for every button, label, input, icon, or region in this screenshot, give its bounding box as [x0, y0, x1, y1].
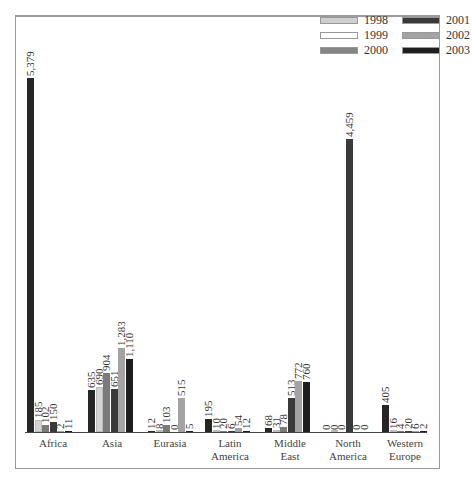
bar-group-asia: 6356909046511,2831,110	[88, 40, 134, 433]
bar	[280, 427, 287, 432]
bar	[228, 431, 235, 433]
data-label: 1,110	[125, 333, 134, 357]
data-label: 0	[360, 425, 369, 431]
bar-group-western-europe: 4051642062	[382, 40, 428, 433]
bar-group-north-america: 0004,45900	[323, 40, 369, 433]
legend-label: 2002	[446, 28, 470, 43]
bar	[111, 389, 118, 432]
data-label: 11	[64, 418, 73, 429]
bar	[405, 431, 412, 433]
bar	[126, 359, 133, 432]
bar	[96, 387, 103, 432]
bar	[273, 430, 280, 432]
bar	[265, 428, 272, 432]
bar	[65, 431, 72, 433]
bar	[220, 431, 227, 433]
plot-area: 5,3791851021502116356909046511,2831,1101…	[20, 40, 435, 433]
data-label: 2	[419, 423, 428, 429]
legend-label: 2001	[446, 13, 470, 28]
legend-swatch	[320, 17, 358, 24]
bar	[42, 425, 49, 432]
bar	[412, 431, 419, 433]
bar-group-middle-east: 683178513772760	[265, 40, 311, 433]
legend-swatch	[320, 32, 358, 39]
bar	[303, 382, 310, 432]
bar	[243, 431, 250, 433]
data-label: 12	[242, 418, 251, 429]
data-label: 760	[302, 363, 311, 380]
bar	[295, 381, 302, 432]
x-tick-label: WesternEurope	[370, 437, 440, 463]
bar	[331, 430, 338, 432]
bar	[420, 431, 427, 433]
x-tick-label-line: Western	[370, 437, 440, 450]
legend-item-2001: 2001	[402, 14, 472, 27]
legend-swatch	[402, 17, 440, 24]
bar	[213, 430, 220, 432]
data-label: 4,459	[345, 112, 354, 137]
data-label: 904	[102, 354, 111, 371]
legend-label: 2003	[446, 43, 470, 58]
bar-group-africa: 5,379185102150211	[27, 40, 73, 433]
bar	[27, 78, 34, 432]
legend-item-1998: 1998	[320, 14, 402, 27]
data-label: 5	[185, 423, 194, 429]
data-label: 150	[49, 404, 58, 421]
data-label: 103	[162, 407, 171, 424]
data-label: 195	[204, 401, 213, 418]
bar	[288, 398, 295, 432]
legend-swatch	[402, 32, 440, 39]
bar	[57, 431, 64, 433]
data-label: 405	[381, 387, 390, 404]
bar	[118, 348, 125, 432]
bar-group-latin-america: 195102065412	[205, 40, 251, 433]
legend-label: 1998	[364, 13, 388, 28]
data-label: 515	[177, 380, 186, 397]
x-tick-label-line: Europe	[370, 450, 440, 463]
bar	[397, 431, 404, 433]
data-label: 5,379	[26, 51, 35, 76]
bar-group-eurasia: 12810305155	[148, 40, 194, 433]
bar	[346, 139, 353, 432]
bar	[88, 390, 95, 432]
bar	[390, 430, 397, 432]
bar	[156, 430, 163, 432]
bar	[148, 431, 155, 433]
bar	[186, 431, 193, 433]
